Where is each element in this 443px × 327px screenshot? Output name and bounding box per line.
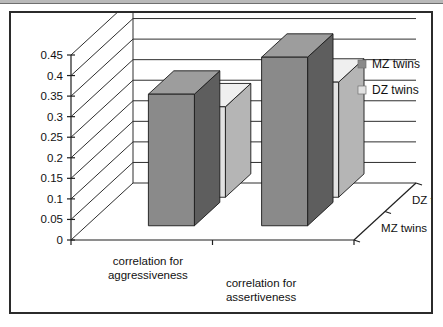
category-labels: correlation foraggressivenesscorrelation… bbox=[108, 255, 297, 303]
category-label-1-line-0: correlation for bbox=[226, 277, 296, 289]
bar-mz-twins-cat0-front bbox=[148, 94, 194, 226]
y-tick-label-1: 0.05 bbox=[41, 213, 63, 225]
y-tick-label-5: 0.25 bbox=[41, 131, 63, 143]
category-label-0-line-0: correlation for bbox=[113, 255, 183, 267]
y-tick-label-2: 0.1 bbox=[47, 193, 63, 205]
top-scan-strip-line bbox=[0, 3, 443, 4]
y-axis-tick-labels: 00.050.10.150.20.250.30.350.40.45 bbox=[41, 49, 75, 246]
figure-frame: 00.050.10.150.20.250.30.350.40.45 correl… bbox=[9, 11, 433, 314]
y-tick-label-0: 0 bbox=[57, 234, 63, 246]
category-label-0-line-1: aggressiveness bbox=[108, 269, 188, 281]
legend-label-0: MZ twins bbox=[372, 57, 420, 71]
y-tick-label-3: 0.15 bbox=[41, 172, 63, 184]
y-tick-label-9: 0.45 bbox=[41, 49, 63, 61]
chart-page: 00.050.10.150.20.250.30.350.40.45 correl… bbox=[0, 0, 443, 327]
bar-chart-3d: 00.050.10.150.20.250.30.350.40.45 correl… bbox=[11, 13, 431, 312]
y-tick-label-6: 0.3 bbox=[47, 111, 63, 123]
legend: MZ twinsDZ twins bbox=[358, 57, 420, 97]
legend-swatch-1 bbox=[358, 86, 366, 94]
depth-axis-labels: MZ twinsDZ twins bbox=[381, 194, 431, 235]
category-label-1-line-1: assertiveness bbox=[226, 291, 297, 303]
bars-group bbox=[148, 34, 364, 226]
depth-tick-mark-2 bbox=[416, 183, 422, 185]
bar-mz-twins-cat1-side bbox=[308, 34, 333, 226]
bar-dz-twins-cat1-side bbox=[339, 59, 364, 197]
depth-tick-mark-1 bbox=[385, 212, 391, 214]
y-tick-label-7: 0.35 bbox=[41, 90, 63, 102]
x-axis bbox=[71, 240, 354, 245]
legend-label-1: DZ twins bbox=[372, 83, 419, 97]
bar-mz-twins-cat0-side bbox=[194, 71, 219, 226]
depth-tick-mark-0 bbox=[354, 240, 360, 242]
legend-swatch-0 bbox=[358, 60, 366, 68]
depth-axis-label-0: MZ twins bbox=[381, 222, 427, 234]
grid-line-side-9 bbox=[71, 13, 133, 55]
depth-axis-label-1: DZ twins bbox=[412, 194, 431, 206]
y-tick-label-4: 0.2 bbox=[47, 152, 63, 164]
bar-mz-twins-cat1-front bbox=[262, 57, 308, 226]
y-tick-label-8: 0.4 bbox=[47, 70, 64, 82]
